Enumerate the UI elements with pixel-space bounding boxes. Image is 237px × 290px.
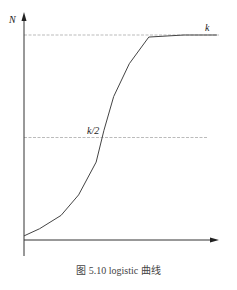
reference-label-half-k: k/2 xyxy=(87,125,99,136)
series-line-logistic xyxy=(24,35,217,236)
reference-label-k: k xyxy=(205,22,210,33)
logistic-chart: N kk/2 xyxy=(0,0,237,258)
x-axis-arrow xyxy=(210,238,219,243)
figure-caption: 图 5.10 logistic 曲线 xyxy=(0,262,237,277)
y-axis-label: N xyxy=(8,14,17,25)
y-axis-arrow xyxy=(22,12,27,21)
